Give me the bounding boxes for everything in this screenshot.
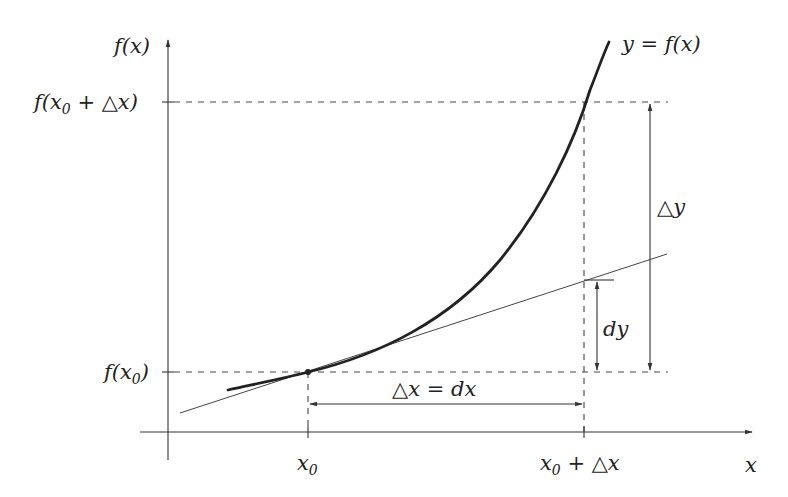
differential-diagram: f(x) x y = f(x) f(x0 + △x) f(x0) x0 x0 +… bbox=[0, 0, 788, 497]
point-x0 bbox=[305, 369, 311, 375]
label-x0dx: x0 + △x bbox=[540, 451, 620, 478]
label-fx0: f(x0) bbox=[102, 360, 149, 387]
y-axis-label: f(x) bbox=[112, 34, 150, 58]
x-axis-label: x bbox=[745, 453, 757, 477]
label-delta-y: △y bbox=[657, 195, 686, 219]
label-delta-x: △x = dx bbox=[392, 377, 476, 401]
label-fx0dx: f(x0 + △x) bbox=[32, 90, 138, 117]
label-x0: x0 bbox=[297, 451, 318, 478]
curve-label: y = f(x) bbox=[621, 32, 701, 56]
label-dy: dy bbox=[603, 317, 629, 341]
curve bbox=[228, 42, 609, 390]
